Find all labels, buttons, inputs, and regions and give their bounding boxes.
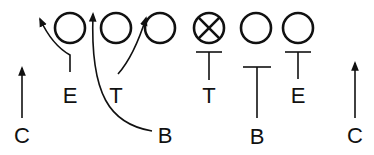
left-t-label: T [109,83,122,108]
right-c-label: C [347,123,363,148]
play-diagram: C E T B T B E C [0,0,374,155]
right-t-label: T [202,83,215,108]
left-c-label: C [14,123,30,148]
right-b-block-icon [243,67,271,118]
offense-player-2 [101,13,131,43]
right-e-label: E [291,83,306,108]
right-t-block-icon [196,52,222,80]
left-e-label: E [63,83,78,108]
offense-player-5 [241,13,271,43]
right-b-label: B [250,124,265,149]
offense-center-x-icon [194,13,224,43]
offense-player-6 [283,13,313,43]
right-e-block-icon [285,52,311,79]
offense-player-3 [145,13,175,43]
offense-player-1 [55,13,85,43]
left-b-label: B [158,123,173,148]
